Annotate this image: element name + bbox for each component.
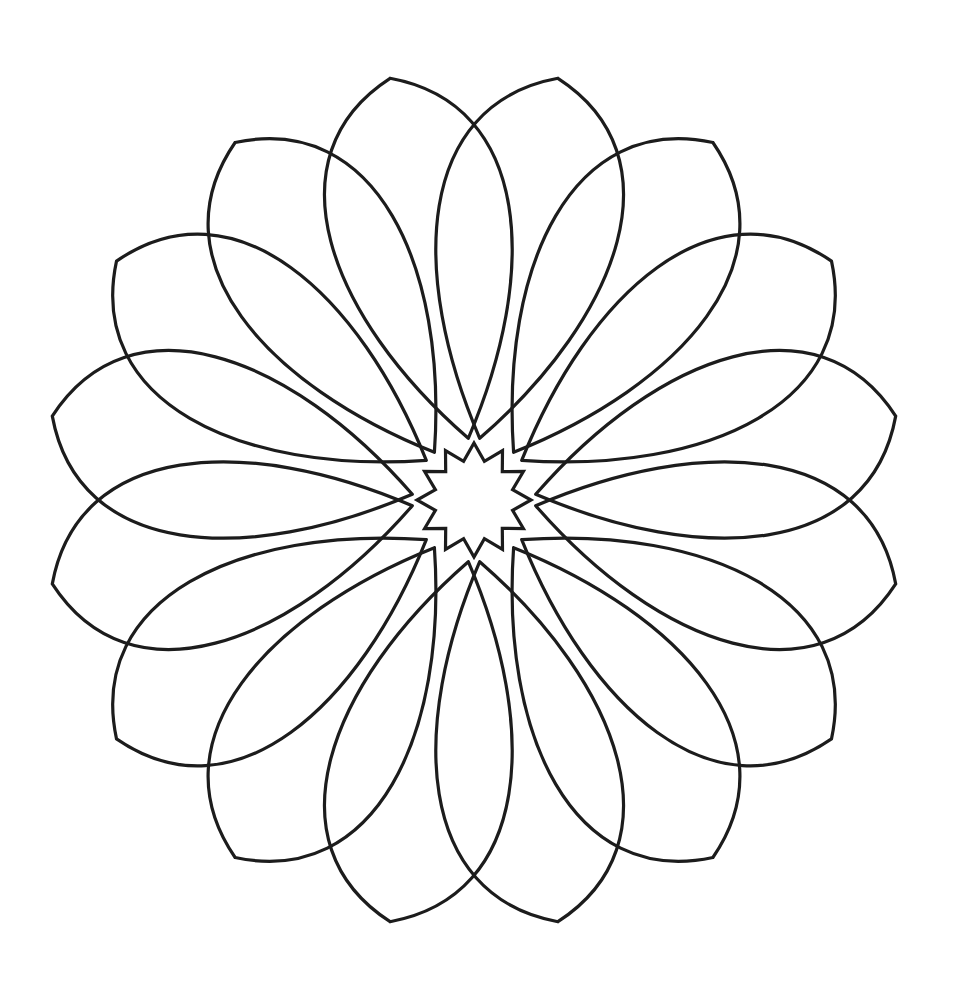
heart-loops: [52, 78, 895, 921]
teardrop-loop: [436, 562, 624, 922]
teardrop-loop: [324, 78, 512, 438]
teardrop-loop: [52, 350, 412, 538]
teardrop-loop: [436, 78, 624, 438]
teardrop-loop: [52, 462, 412, 650]
center-star-icon: [417, 443, 531, 557]
mandala-drawing: [0, 0, 955, 1002]
teardrop-loop: [536, 350, 896, 538]
teardrop-loop: [324, 562, 512, 922]
teardrop-loop: [536, 462, 896, 650]
